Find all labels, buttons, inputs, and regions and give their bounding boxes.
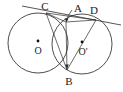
segment-A-D xyxy=(66,20,96,22)
segment-A-B xyxy=(66,22,67,70)
center-dot-O xyxy=(37,40,40,43)
segment-C-B xyxy=(46,13,67,70)
tangent-line-CD xyxy=(22,6,121,25)
segment-D-B xyxy=(67,20,96,70)
geometry-figure: C A D B O O' xyxy=(0,0,123,92)
left-circle xyxy=(8,13,68,73)
center-dot-O-prime xyxy=(81,41,84,44)
geometry-canvas xyxy=(0,0,123,92)
